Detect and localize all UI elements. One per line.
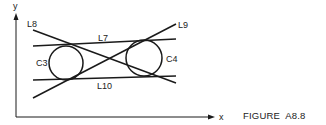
label-c4: C4 <box>166 54 178 64</box>
label-l7: L7 <box>98 33 108 43</box>
label-l8: L8 <box>27 19 37 29</box>
y-axis-arrow-icon <box>14 13 19 20</box>
label-c3: C3 <box>36 58 48 68</box>
y-axis-label: y <box>13 1 18 11</box>
x-axis-arrow-icon <box>208 115 215 120</box>
circle-c3 <box>49 46 83 80</box>
label-l9: L9 <box>178 20 188 30</box>
figure-caption: FIGURE A8.8 <box>243 110 306 121</box>
label-l10: L10 <box>97 81 112 91</box>
x-axis-label: x <box>219 112 224 122</box>
figure-a8-8-diagram: y x L8 L9 L7 L10 C3 C4 FIGURE A8.8 <box>0 0 326 125</box>
line-l10 <box>33 76 176 80</box>
